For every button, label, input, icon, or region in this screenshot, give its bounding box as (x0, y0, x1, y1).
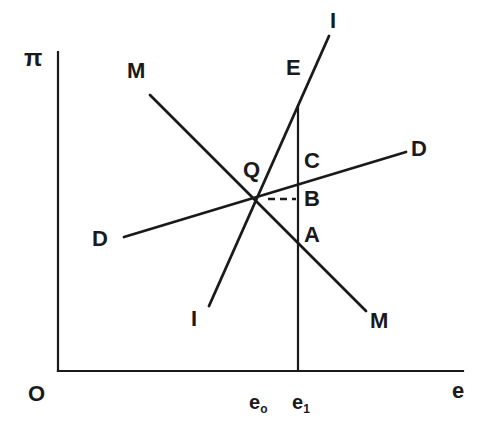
economics-line-diagram: π O e eo e1 MMDDIIQECBA (0, 0, 484, 428)
label-point-q: Q (243, 159, 260, 181)
label-i-lower: I (191, 308, 197, 330)
label-point-a: A (304, 224, 320, 246)
diagram-canvas (0, 0, 484, 428)
tick-base: e (249, 391, 260, 413)
tick-subscript: o (260, 402, 267, 416)
dd-curve (124, 152, 406, 237)
label-point-e: E (286, 57, 301, 79)
label-point-c: C (304, 150, 320, 172)
mm-curve (150, 95, 366, 311)
label-m-lower-right: M (370, 310, 388, 332)
tick-subscript: 1 (303, 402, 310, 416)
label-point-b: B (304, 188, 320, 210)
label-d-left: D (92, 228, 108, 250)
x-tick-e-one: e1 (292, 392, 310, 412)
y-axis-label: π (24, 46, 42, 70)
label-m-upper-left: M (127, 60, 145, 82)
x-axis-label: e (452, 380, 464, 402)
label-i-upper: I (330, 10, 336, 32)
label-d-right: D (411, 138, 427, 160)
x-tick-e-zero: eo (249, 392, 267, 412)
origin-label: O (28, 383, 45, 405)
tick-base: e (292, 391, 303, 413)
